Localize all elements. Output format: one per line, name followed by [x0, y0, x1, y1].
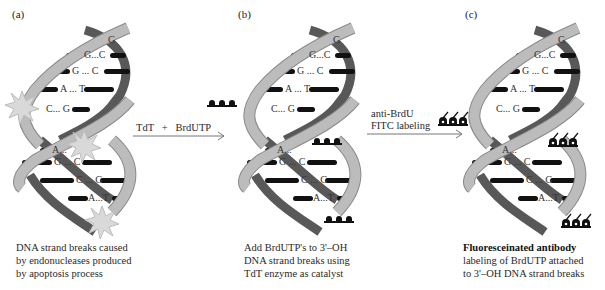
arrow-label-tdt-brdutp: TdT + BrdUTP	[136, 121, 211, 134]
caption-b-line-3: TdT enzyme as catalyst	[244, 267, 350, 280]
caption-c-line-2: labeling of BrdUTP attached	[463, 254, 584, 267]
caption-a-line-1: DNA strand breaks caused	[16, 241, 131, 254]
fitc-antibody-icon	[561, 214, 591, 228]
brdutp-icon	[324, 216, 354, 223]
helix-panel-c	[438, 28, 591, 232]
helix-panel-b	[207, 28, 355, 232]
caption-c-line-1: Fluoresceinated antibody	[463, 241, 584, 254]
caption-panel-b: Add BrdUTP's to 3'–OH DNA strand breaks …	[244, 241, 350, 280]
caption-c-bold-title: Fluoresceinated antibody	[463, 242, 576, 253]
caption-panel-c: Fluoresceinated antibody labeling of Brd…	[463, 241, 584, 280]
caption-a-line-3: by apoptosis process	[16, 267, 131, 280]
caption-c-line-3: to 3'–OH DNA strand breaks	[463, 267, 584, 280]
caption-b-line-1: Add BrdUTP's to 3'–OH	[244, 241, 350, 254]
caption-b-line-2: DNA strand breaks using	[244, 254, 350, 267]
caption-a-line-2: by endonucleases produced	[16, 254, 131, 267]
brdutp-icon	[207, 100, 237, 107]
fitc-antibody-icon	[438, 112, 468, 126]
brdutp-icon	[312, 138, 342, 145]
caption-panel-a: DNA strand breaks caused by endonuclease…	[16, 241, 131, 280]
helix-panel-a	[5, 28, 130, 239]
fitc-antibody-icon	[548, 133, 578, 147]
arrow-label-fitc-labeling: FITC labeling	[371, 119, 430, 132]
